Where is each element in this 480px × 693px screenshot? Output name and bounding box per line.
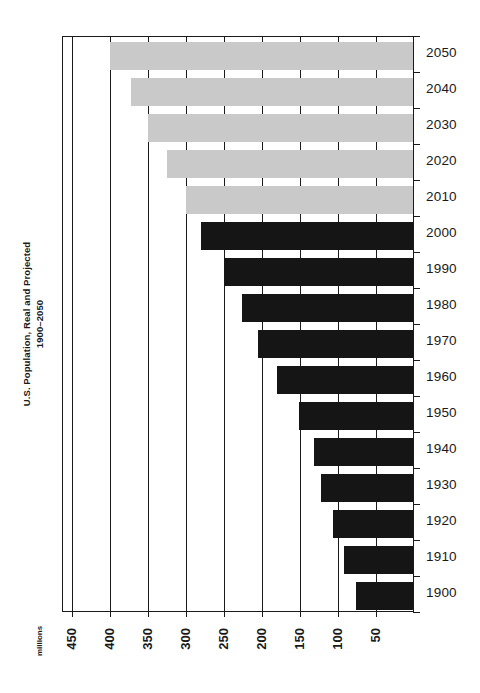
category-label-2000: 2000 (426, 225, 457, 240)
bar-1930 (321, 474, 414, 502)
bar-1960 (277, 366, 414, 394)
bar-2000 (201, 222, 414, 250)
category-tick (413, 360, 420, 361)
bar-2040 (131, 78, 414, 106)
category-label-2030: 2030 (426, 117, 457, 132)
bar-1950 (299, 402, 414, 430)
category-tick (413, 252, 420, 253)
x-axis-tick-label: 150 (292, 628, 306, 672)
category-tick (413, 576, 420, 577)
value-axis-labels: 45040035030025020015010050 (0, 612, 480, 692)
page-title: U.S. Population, Real and Projected 1900… (20, 242, 46, 407)
category-tick (413, 396, 420, 397)
bar-2010 (186, 186, 414, 214)
chart-title-block: U.S. Population, Real and Projected 1900… (10, 36, 56, 612)
category-tick (413, 432, 420, 433)
category-tick (413, 468, 420, 469)
x-axis-tick-label-text: 200 (254, 628, 269, 650)
category-label-2020: 2020 (426, 153, 457, 168)
category-tick (413, 288, 420, 289)
x-axis-tick-label-text: 300 (178, 628, 193, 650)
category-label-1930: 1930 (426, 477, 457, 492)
x-axis-tick-label-text: 50 (368, 628, 383, 642)
category-tick (413, 216, 420, 217)
gridline (72, 37, 73, 611)
x-axis-tick-label-text: 150 (292, 628, 307, 650)
bar-2050 (110, 42, 414, 70)
category-label-1940: 1940 (426, 441, 457, 456)
category-label-1960: 1960 (426, 369, 457, 384)
category-label-1970: 1970 (426, 333, 457, 348)
category-tick (413, 144, 420, 145)
x-axis-tick-label: 350 (140, 628, 154, 672)
x-axis-tick-label-text: 400 (102, 628, 117, 650)
x-axis-tick-label-text: 100 (330, 628, 345, 650)
bar-1900 (356, 582, 414, 610)
bar-1990 (224, 258, 414, 286)
category-label-1910: 1910 (426, 549, 457, 564)
x-axis-tick-label: 50 (368, 628, 382, 672)
chart-title-line2: 1900–2050 (33, 242, 46, 407)
category-tick (413, 540, 420, 541)
x-axis-tick-label: 400 (102, 628, 116, 672)
category-label-1990: 1990 (426, 261, 457, 276)
x-tick-top (72, 37, 73, 42)
category-axis: 2050204020302020201020001990198019701960… (413, 36, 480, 612)
x-axis-tick-label-text: 250 (216, 628, 231, 650)
category-label-1950: 1950 (426, 405, 457, 420)
category-label-1980: 1980 (426, 297, 457, 312)
bar-1980 (242, 294, 414, 322)
gridline (110, 37, 111, 611)
x-axis-tick-label: 200 (254, 628, 268, 672)
plot-area (62, 36, 413, 612)
bar-1940 (314, 438, 414, 466)
category-label-1900: 1900 (426, 585, 457, 600)
chart-figure: U.S. Population, Real and Projected 1900… (0, 0, 480, 693)
category-label-1920: 1920 (426, 513, 457, 528)
x-axis-tick-label: 450 (64, 628, 78, 672)
bar-1910 (344, 546, 414, 574)
category-tick (413, 180, 420, 181)
category-tick (413, 72, 420, 73)
category-label-2010: 2010 (426, 189, 457, 204)
category-tick (413, 324, 420, 325)
category-label-2040: 2040 (426, 81, 457, 96)
x-axis-tick-label: 100 (330, 628, 344, 672)
category-label-2050: 2050 (426, 45, 457, 60)
x-axis-tick-label: 250 (216, 628, 230, 672)
category-tick (413, 36, 420, 37)
category-tick (413, 108, 420, 109)
x-axis-tick-label: 300 (178, 628, 192, 672)
bar-2020 (167, 150, 414, 178)
bar-1920 (333, 510, 414, 538)
bar-1970 (258, 330, 414, 358)
chart-title-line1: U.S. Population, Real and Projected (20, 242, 33, 407)
x-axis-tick-label-text: 350 (140, 628, 155, 650)
x-axis-tick-label-text: 450 (64, 628, 79, 650)
bar-2030 (148, 114, 414, 142)
category-tick (413, 504, 420, 505)
